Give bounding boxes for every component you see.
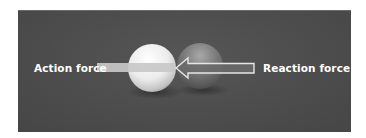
action-force-arrow bbox=[97, 63, 175, 72]
action-force-label: Action force bbox=[34, 63, 107, 74]
reaction-force-label: Reaction force bbox=[263, 63, 350, 74]
